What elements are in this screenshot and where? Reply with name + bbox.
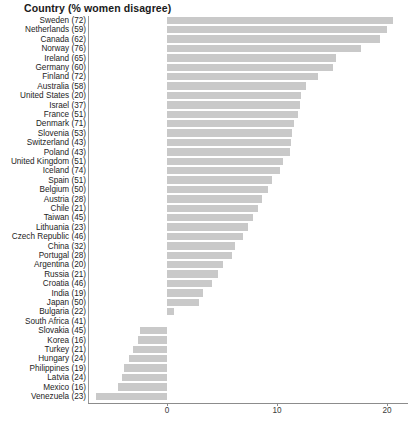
- bar-row: Hungary (24): [88, 354, 412, 363]
- x-tick-label: 10: [272, 406, 281, 415]
- category-label: Belgium (50): [40, 185, 86, 194]
- plot-area: Sweden (72)Netherlands (59)Canada (62)No…: [88, 16, 412, 403]
- category-label: Chile (21): [51, 204, 87, 213]
- bar-row: Switzerland (43): [88, 138, 412, 147]
- bar: [167, 167, 280, 174]
- category-label: Russia (21): [44, 270, 86, 279]
- bar: [167, 148, 290, 155]
- bar: [167, 45, 361, 52]
- bar-row: China (32): [88, 242, 412, 251]
- bar-row: Spain (51): [88, 176, 412, 185]
- bar: [167, 233, 243, 240]
- bar-row: Portugal (28): [88, 251, 412, 260]
- bar-row: Japan (50): [88, 298, 412, 307]
- bar: [167, 129, 292, 136]
- bar: [167, 64, 333, 71]
- bar: [167, 223, 248, 230]
- bar: [138, 336, 167, 343]
- bar-row: Netherlands (59): [88, 25, 412, 34]
- bar-row: South Africa (41): [88, 317, 412, 326]
- bar: [124, 364, 167, 371]
- category-label: Slovakia (45): [38, 326, 86, 335]
- bar: [122, 374, 167, 381]
- category-label: Sweden (72): [40, 16, 86, 25]
- category-label: Lithuania (23): [36, 223, 86, 232]
- category-label: Norway (76): [41, 44, 86, 53]
- bar: [167, 261, 223, 268]
- bar: [167, 195, 262, 202]
- category-label: Korea (16): [47, 336, 86, 345]
- bar-row: Denmark (71): [88, 119, 412, 128]
- category-label: Czech Republic (46): [12, 232, 86, 241]
- bar: [167, 120, 294, 127]
- bar: [133, 346, 167, 353]
- bar-row: India (19): [88, 289, 412, 298]
- bar: [167, 242, 235, 249]
- bar-row: Taiwan (45): [88, 213, 412, 222]
- category-label: Hungary (24): [38, 354, 86, 363]
- bar-row: Venezuela (23): [88, 392, 412, 401]
- x-axis-line: [88, 403, 408, 404]
- category-label: Portugal (28): [39, 251, 86, 260]
- category-label: Germany (60): [35, 63, 86, 72]
- bar: [167, 26, 387, 33]
- bar: [167, 73, 318, 80]
- category-label: Taiwan (45): [44, 213, 86, 222]
- bar-row: Germany (60): [88, 63, 412, 72]
- category-label: India (19): [51, 289, 86, 298]
- bar: [167, 35, 380, 42]
- category-label: Austria (28): [44, 195, 86, 204]
- bar: [167, 139, 291, 146]
- bar: [167, 299, 199, 306]
- bar-row: Poland (43): [88, 148, 412, 157]
- bar-row: France (51): [88, 110, 412, 119]
- bar: [96, 393, 168, 400]
- category-label: France (51): [44, 110, 86, 119]
- bar: [167, 54, 336, 61]
- category-label: China (32): [48, 242, 86, 251]
- bar-row: Lithuania (23): [88, 223, 412, 232]
- category-label: Iceland (74): [43, 166, 86, 175]
- horizontal-bar-chart: Country (% women disagree) Sweden (72)Ne…: [0, 0, 412, 429]
- category-label: Canada (62): [40, 35, 86, 44]
- bar-row: Philippines (19): [88, 364, 412, 373]
- category-label: Croatia (46): [43, 279, 86, 288]
- bar-row: Mexico (16): [88, 383, 412, 392]
- category-label: Finland (72): [42, 72, 86, 81]
- category-label: Slovenia (53): [38, 129, 86, 138]
- category-label: Australia (58): [37, 82, 86, 91]
- bar: [167, 82, 306, 89]
- category-label: Venezuela (23): [31, 392, 86, 401]
- category-label: Japan (50): [47, 298, 86, 307]
- category-label: Netherlands (59): [25, 25, 86, 34]
- bar-row: Latvia (24): [88, 373, 412, 382]
- bar-row: Czech Republic (46): [88, 232, 412, 241]
- x-tick-label: 20: [382, 406, 391, 415]
- bar-row: Norway (76): [88, 44, 412, 53]
- bar: [167, 252, 232, 259]
- category-label: United Kingdom (51): [11, 157, 86, 166]
- category-label: Spain (51): [48, 176, 86, 185]
- bar: [167, 270, 218, 277]
- bar-row: Canada (62): [88, 35, 412, 44]
- bar: [140, 327, 168, 334]
- category-label: United States (20): [20, 91, 86, 100]
- category-label: Switzerland (43): [27, 138, 86, 147]
- category-label: Turkey (21): [44, 345, 86, 354]
- bar-row: Bulgaria (22): [88, 307, 412, 316]
- bar-row: United States (20): [88, 91, 412, 100]
- bar: [167, 289, 203, 296]
- category-label: Denmark (71): [36, 119, 86, 128]
- bar: [118, 383, 168, 390]
- bar-row: Argentina (20): [88, 260, 412, 269]
- bar: [167, 17, 393, 24]
- bar-row: Ireland (65): [88, 54, 412, 63]
- category-label: Bulgaria (22): [39, 307, 86, 316]
- bar-row: Israel (37): [88, 101, 412, 110]
- bar-row: Iceland (74): [88, 166, 412, 175]
- bar-row: United Kingdom (51): [88, 157, 412, 166]
- bar: [167, 205, 258, 212]
- category-label: Ireland (65): [44, 54, 86, 63]
- bar-row: Russia (21): [88, 270, 412, 279]
- category-label: Philippines (19): [30, 364, 86, 373]
